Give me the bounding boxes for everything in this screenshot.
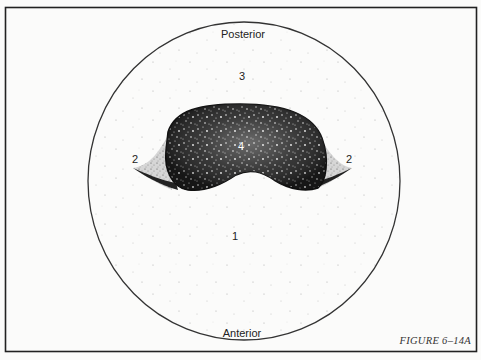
label-region-1: 1: [232, 230, 238, 242]
label-region-2-left: 2: [132, 153, 138, 165]
label-anterior: Anterior: [223, 327, 262, 339]
label-posterior: Posterior: [221, 28, 265, 40]
label-region-3: 3: [239, 70, 245, 82]
figure-caption: FIGURE 6–14A: [399, 335, 471, 346]
label-region-4: 4: [238, 140, 244, 152]
label-region-2-right: 2: [346, 153, 352, 165]
diagram-canvas: [0, 0, 481, 360]
